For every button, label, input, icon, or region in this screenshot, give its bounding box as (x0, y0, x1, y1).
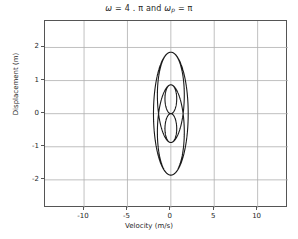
y-tick-mark (41, 112, 44, 113)
y-tick-label: -1 (18, 142, 39, 150)
x-tick-label: 0 (168, 212, 172, 220)
x-tick-label: 10 (252, 212, 261, 220)
chart-title: ω = 4 . π and ωp = π (0, 4, 298, 13)
y-tick-label: -2 (18, 175, 39, 183)
x-tick-label: -10 (77, 212, 88, 220)
title-eq2: = π (175, 4, 192, 13)
figure-canvas: ω = 4 . π and ωp = π Displacement (m) Ve… (0, 0, 298, 239)
x-tick-mark (83, 207, 84, 210)
y-axis-label: Displacement (m) (12, 14, 20, 154)
x-tick-mark (169, 207, 170, 210)
x-tick-mark (256, 207, 257, 210)
y-tick-label: 1 (18, 76, 39, 84)
y-tick-mark (41, 145, 44, 146)
y-tick-label: 0 (18, 109, 39, 117)
y-tick-mark (41, 46, 44, 47)
y-tick-label: 2 (18, 42, 39, 50)
y-tick-mark (41, 79, 44, 80)
gridlines (45, 21, 288, 208)
x-tick-label: 5 (211, 212, 215, 220)
title-eq1: = 4 . π and (112, 4, 164, 13)
plot-area (44, 20, 287, 207)
x-tick-mark (126, 207, 127, 210)
y-tick-mark (41, 178, 44, 179)
x-tick-label: -5 (123, 212, 130, 220)
plot-svg (45, 21, 288, 208)
x-tick-mark (213, 207, 214, 210)
x-axis-label: Velocity (m/s) (0, 222, 298, 230)
